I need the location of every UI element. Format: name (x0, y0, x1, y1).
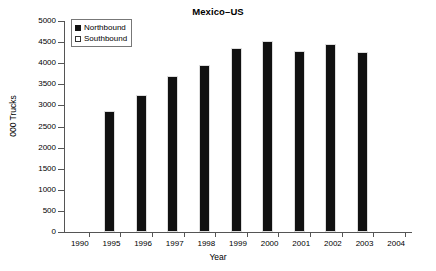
legend-item-northbound: Northbound (75, 22, 127, 33)
x-tick (373, 232, 374, 237)
bar (167, 76, 178, 232)
x-tick (247, 232, 248, 237)
y-axis-title: 000 Trucks (8, 71, 18, 161)
x-tick (89, 232, 90, 237)
y-tick-label: 4000 (20, 59, 56, 67)
x-axis-title: Year (0, 252, 436, 262)
y-tick (58, 63, 64, 64)
legend-item-southbound: Southbound (75, 33, 127, 44)
y-tick-label: 2000 (20, 144, 56, 152)
x-tick (405, 232, 406, 237)
y-tick (58, 84, 64, 85)
y-tick (58, 148, 64, 149)
y-tick-label: 1500 (20, 165, 56, 173)
y-tick-label-wrap: 5000 (14, 17, 56, 25)
x-tick (310, 232, 311, 237)
x-tick (215, 232, 216, 237)
y-tick-label-wrap: 1500 (14, 165, 56, 173)
x-axis-line (64, 232, 412, 233)
y-tick (58, 42, 64, 43)
legend-label-southbound: Southbound (84, 34, 127, 44)
y-tick (58, 190, 64, 191)
chart-title: Mexico–US (0, 6, 436, 17)
x-tick (120, 232, 121, 237)
x-tick (184, 232, 185, 237)
x-tick (278, 232, 279, 237)
y-tick-label: 3500 (20, 80, 56, 88)
y-tick-label: 5000 (20, 17, 56, 25)
y-tick (58, 169, 64, 170)
y-tick-label-wrap: 3500 (14, 80, 56, 88)
bar (294, 51, 305, 232)
bar (231, 48, 242, 232)
y-tick (58, 232, 64, 233)
y-tick-label-wrap: 2500 (14, 123, 56, 131)
bar (104, 111, 115, 232)
y-tick-label-wrap: 4000 (14, 59, 56, 67)
y-tick-label: 0 (20, 228, 56, 236)
y-tick-label: 3000 (20, 101, 56, 109)
y-tick-label: 1000 (20, 186, 56, 194)
y-tick-label-wrap: 2000 (14, 144, 56, 152)
x-tick (342, 232, 343, 237)
y-tick (58, 21, 64, 22)
y-tick-label: 4500 (20, 38, 56, 46)
y-tick-label: 2500 (20, 123, 56, 131)
bar (199, 65, 210, 232)
y-tick-label: 500 (20, 207, 56, 215)
chart-legend: Northbound Southbound (71, 19, 132, 47)
y-tick-label-wrap: 1000 (14, 186, 56, 194)
y-tick-label-wrap: 4500 (14, 38, 56, 46)
chart-figure: Mexico–US 050010001500200025003000350040… (0, 0, 436, 271)
legend-swatch-filled-icon (75, 25, 81, 31)
y-tick-label-wrap: 0 (14, 228, 56, 236)
y-tick-label-wrap: 500 (14, 207, 56, 215)
bar (325, 44, 336, 232)
x-tick-label: 2004 (376, 239, 416, 248)
bar (357, 52, 368, 232)
x-tick (152, 232, 153, 237)
y-tick-label-wrap: 3000 (14, 101, 56, 109)
bar (136, 95, 147, 232)
legend-label-northbound: Northbound (84, 23, 126, 33)
bar (262, 41, 273, 232)
y-tick (58, 105, 64, 106)
y-tick (58, 127, 64, 128)
legend-swatch-open-icon (75, 36, 81, 42)
y-axis-line (64, 21, 65, 233)
y-tick (58, 211, 64, 212)
